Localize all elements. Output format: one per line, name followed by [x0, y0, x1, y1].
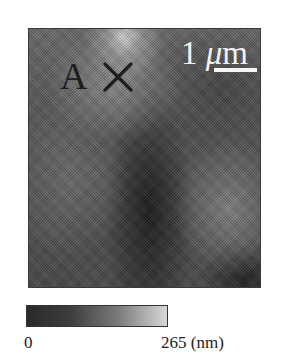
- afm-height-map: A 1 μm: [28, 28, 261, 288]
- cross-marker-icon: [103, 62, 133, 92]
- scale-value: 1: [181, 35, 198, 71]
- scale-unit: m: [222, 35, 248, 71]
- point-marker-label: A: [60, 57, 87, 95]
- scale-bar-label: 1 μm: [181, 35, 248, 71]
- scale-bar: [214, 68, 257, 72]
- height-colorbar: [26, 305, 168, 327]
- colorbar-max-label: 265 (nm): [161, 333, 224, 353]
- colorbar-min-label: 0: [24, 333, 33, 353]
- scale-unit-prefix: μ: [206, 35, 223, 71]
